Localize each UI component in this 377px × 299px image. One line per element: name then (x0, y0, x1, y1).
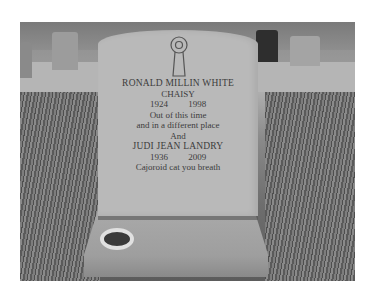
inscription: RONALD MILLIN WHITE CHAISY 1924 1998 Out… (98, 78, 258, 173)
person1-dates: 1924 1998 (98, 99, 258, 110)
person1-nickname: CHAISY (98, 89, 258, 100)
keyhole-ribbon-icon (168, 34, 190, 80)
base-shadow (98, 216, 258, 220)
verse-line-2: and in a different place (98, 120, 258, 131)
background-headstone (290, 36, 320, 66)
grass (265, 92, 355, 281)
headstone-photo: RONALD MILLIN WHITE CHAISY 1924 1998 Out… (20, 22, 355, 281)
person1-name: RONALD MILLIN WHITE (98, 78, 258, 89)
person2-name: JUDI JEAN LANDRY (98, 141, 258, 152)
background-headstone (256, 30, 278, 62)
background-headstone (20, 42, 32, 78)
closing-line: Cajoroid cat you breath (98, 162, 258, 173)
verse-line-1: Out of this time (98, 110, 258, 121)
flower-vase-holder (100, 228, 134, 250)
background-headstone (52, 32, 78, 70)
conjunction: And (98, 131, 258, 142)
person2-dates: 1936 2009 (98, 152, 258, 163)
